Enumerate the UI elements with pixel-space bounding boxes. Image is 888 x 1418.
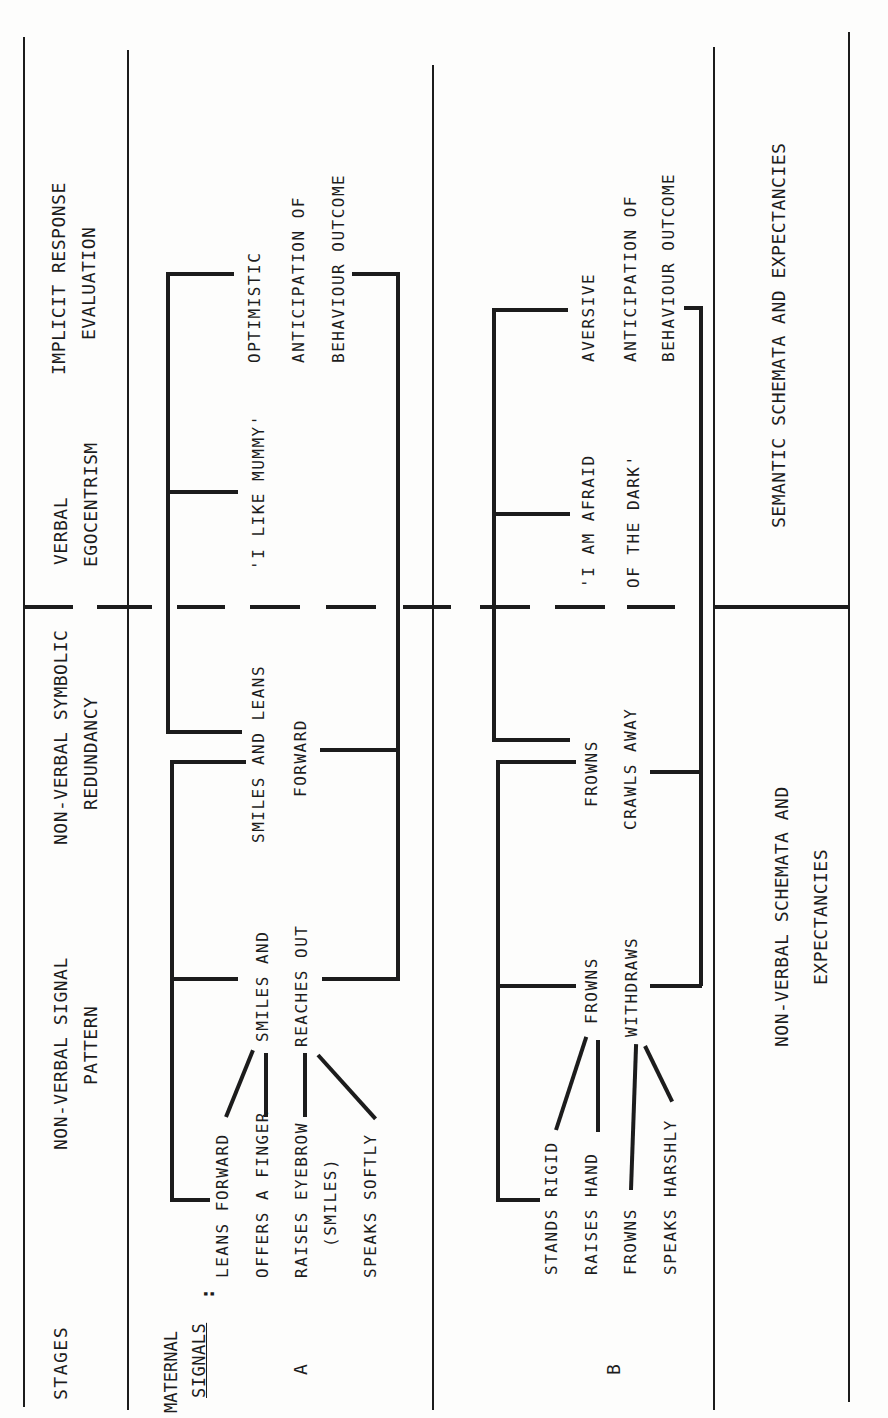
a-connector-3 (303, 1053, 307, 1117)
a-connector-4 (317, 1054, 378, 1121)
b-connector-2 (596, 1040, 600, 1132)
a-signal-offers-finger: Offers a finger (254, 1111, 272, 1278)
signals-colon: : (198, 1286, 216, 1300)
b-right-pattern-cap (650, 984, 702, 988)
a-pattern-line2: reaches out (293, 925, 311, 1047)
row-divider-line (432, 65, 434, 1410)
b-connector-1 (554, 1036, 588, 1130)
footer-divider-line (713, 47, 715, 1410)
a-bracket-bottom-cap (170, 1198, 210, 1202)
header-ire-line2: EVALUATION (80, 227, 98, 340)
a-right-eval-cap (352, 272, 400, 276)
b-redundancy-line2: Crawls away (622, 708, 640, 830)
row-label-b: B (605, 1363, 623, 1375)
footer-nonverbal-line1: NON-VERBAL SCHEMATA AND (773, 786, 791, 1047)
b-verbal-line2: of the dark' (625, 454, 643, 588)
a-right-arm (396, 272, 400, 980)
footer-semantic: SEMANTIC SCHEMATA AND EXPECTANCIES (770, 143, 788, 528)
border-line-left (23, 37, 25, 1407)
b-connector-3 (629, 1044, 638, 1190)
a-eval-line1: Optimistic (246, 252, 264, 363)
b-signal-stands-rigid: Stands rigid (543, 1141, 561, 1275)
a-verbal-quote: 'I like Mummy' (250, 414, 268, 570)
a-signal-raises-eyebrow: Raises eyebrow (293, 1122, 311, 1278)
a-right-pattern-cap (322, 977, 400, 981)
b-bracket-redundancy-upper-tick (492, 738, 570, 742)
b-right-arm (699, 306, 703, 986)
b-right-eval-cap (684, 306, 703, 310)
row-label-a: A (292, 1363, 310, 1375)
footer-nonverbal-line2: EXPECTANCIES (812, 849, 830, 985)
header-ire-line1: IMPLICIT RESPONSE (50, 182, 68, 375)
b-bracket-pattern-tick (496, 984, 576, 988)
b-eval-line3: behaviour outcome (660, 173, 678, 362)
header-nvsr-line2: REDUNDANCY (82, 697, 100, 810)
a-bracket-pattern-tick (170, 977, 238, 981)
a-bracket-eval-top-cap (166, 272, 234, 276)
b-eval-line2: anticipation of (622, 195, 640, 362)
b-bracket-verbal-tick (492, 512, 570, 516)
b-redundancy-line1: Frowns (583, 740, 601, 807)
a-right-redundancy-tick (320, 748, 398, 752)
b-pattern-line2: Withdraws (623, 937, 641, 1037)
a-bracket-main (170, 760, 174, 1202)
a-redundancy-line1: Smiles and leans (250, 665, 268, 843)
b-bracket-bottom-cap (496, 1198, 540, 1202)
b-eval-line1: Aversive (580, 273, 598, 362)
b-bracket-redundancy-lower-tick (496, 760, 576, 764)
a-bracket-verbal-tick (166, 490, 238, 494)
b-bracket-upper (492, 308, 496, 740)
b-connector-4 (643, 1045, 674, 1102)
a-eval-line2: anticipation of (290, 196, 308, 363)
maternal-label: MATERNAL (162, 1331, 180, 1413)
header-stages: STAGES (52, 1326, 70, 1400)
border-line-right (848, 32, 850, 1402)
a-signal-smiles-paren: (smiles) (322, 1158, 340, 1247)
header-divider-line (127, 50, 129, 1410)
a-bracket-redundancy-upper-tick (166, 730, 242, 734)
header-nvsp-line2: PATTERN (82, 1006, 100, 1085)
b-signal-speaks-harshly: Speaks harshly (662, 1119, 680, 1275)
b-signal-raises-hand: Raises hand (583, 1153, 601, 1275)
b-pattern-line1: Frowns (583, 957, 601, 1024)
footer-solid-divider (715, 605, 848, 609)
a-signal-speaks-softly: Speaks softly (362, 1133, 380, 1278)
b-bracket-lower (496, 760, 500, 1202)
header-ve-line2: EGOCENTRISM (82, 442, 100, 567)
b-right-redundancy-tick (650, 770, 702, 774)
b-bracket-eval-top-cap (492, 308, 568, 312)
b-signal-frowns: Frowns (622, 1208, 640, 1275)
header-nvsp-line1: NON-VERBAL SIGNAL (52, 957, 70, 1150)
a-eval-line3: behaviour outcome (330, 174, 348, 363)
b-verbal-line1: 'I am afraid (580, 454, 598, 588)
header-ve-line1: VERBAL (52, 497, 70, 565)
header-nvsr-line1: NON-VERBAL SYMBOLIC (52, 630, 70, 845)
a-signal-leans-forward: Leans forward (214, 1133, 232, 1278)
a-bracket-redundancy-lower-tick (170, 760, 246, 764)
a-pattern-line1: Smiles and (254, 931, 272, 1042)
a-connector-1 (224, 1049, 255, 1117)
a-bracket-upper (166, 272, 170, 734)
a-connector-2 (264, 1053, 268, 1117)
a-redundancy-line2: forward (292, 719, 310, 797)
signals-label: SIGNALS (190, 1323, 208, 1398)
